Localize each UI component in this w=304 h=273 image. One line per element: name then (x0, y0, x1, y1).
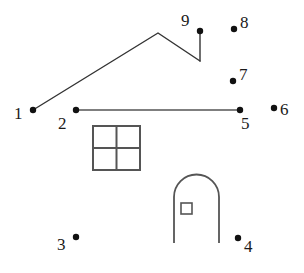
dot-label-5: 5 (241, 115, 250, 132)
dot-7[interactable] (230, 78, 236, 84)
window-shape (93, 126, 140, 170)
dot-label-4: 4 (244, 238, 253, 255)
dot-8[interactable] (231, 26, 237, 32)
door-knob (181, 203, 192, 214)
connect-the-dots-canvas: 1 2 3 4 5 6 7 8 9 (0, 0, 304, 273)
puzzle-drawing (0, 0, 304, 273)
dot-9[interactable] (197, 28, 203, 34)
dot-label-6: 6 (280, 101, 289, 118)
dot-1[interactable] (30, 107, 36, 113)
dot-3[interactable] (73, 234, 79, 240)
dot-2[interactable] (73, 107, 79, 113)
roof-line (33, 33, 200, 110)
dot-label-8: 8 (240, 14, 249, 31)
door-shape (174, 175, 219, 243)
dot-6[interactable] (271, 105, 277, 111)
dot-label-1: 1 (14, 105, 23, 122)
numbered-dots (30, 26, 277, 241)
connector-lines (33, 31, 240, 110)
dot-label-2: 2 (58, 115, 67, 132)
dot-5[interactable] (237, 107, 243, 113)
dot-label-7: 7 (239, 66, 248, 83)
dot-label-3: 3 (57, 236, 66, 253)
dot-4[interactable] (235, 235, 241, 241)
dot-label-9: 9 (181, 12, 190, 29)
